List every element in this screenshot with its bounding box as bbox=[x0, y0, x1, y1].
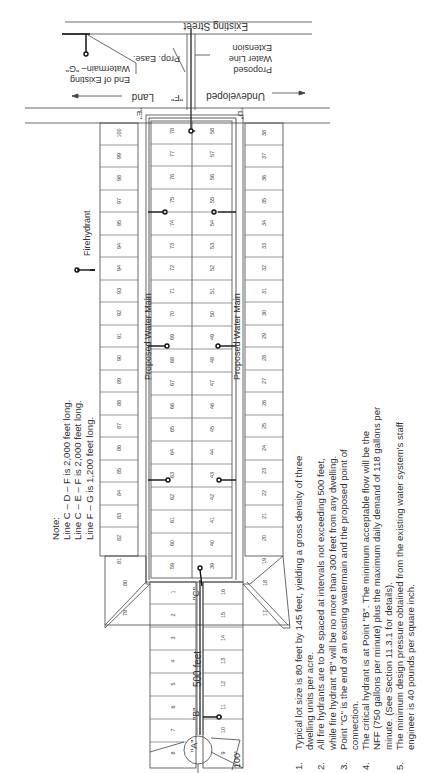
lot-number: 29 bbox=[261, 329, 267, 343]
lot-number: 17 bbox=[262, 606, 268, 620]
note-4: 4.The critical hydrant is at Point "B". … bbox=[360, 407, 394, 770]
firehydrant-legend-label: Firehydrant bbox=[82, 210, 92, 256]
lot-number: 86 bbox=[116, 441, 122, 455]
lot-number: 44 bbox=[209, 445, 215, 459]
lot-number: 47 bbox=[209, 376, 215, 390]
point-f-label: "F" bbox=[171, 93, 183, 103]
note-1: 1.Typical lot size is 80 feet by 145 fee… bbox=[293, 407, 315, 770]
dimension-500-feet: 500 feet bbox=[192, 651, 203, 687]
lot-number: 43 bbox=[209, 468, 215, 482]
lot-number: 19 bbox=[261, 554, 267, 568]
lot-number: 78 bbox=[169, 124, 175, 138]
point-e-label: "E" bbox=[135, 108, 144, 119]
lot-number: 7 bbox=[170, 723, 176, 737]
lot-number: 77 bbox=[169, 147, 175, 161]
lot-number: 73 bbox=[169, 239, 175, 253]
lot-number: 55 bbox=[209, 193, 215, 207]
lot-number: 93 bbox=[116, 284, 122, 298]
lot-number: 60 bbox=[169, 536, 175, 550]
lot-number: 100 bbox=[116, 126, 122, 140]
numbered-notes: 1.Typical lot size is 80 feet by 145 fee… bbox=[293, 407, 416, 770]
lot-number: 68 bbox=[169, 353, 175, 367]
lot-number: 49 bbox=[209, 330, 215, 344]
lot-number: 62 bbox=[169, 490, 175, 504]
lot-number: 36 bbox=[261, 171, 267, 185]
lot-number: 72 bbox=[169, 261, 175, 275]
proposed-extension-label: ProposedWater LineExtension bbox=[229, 42, 272, 75]
lot-number: 45 bbox=[209, 422, 215, 436]
note-3: 3.Point "G" is the end of an existing wa… bbox=[338, 407, 360, 770]
note-2: 2.All fire hydrants are to be spaced at … bbox=[315, 407, 337, 770]
lot-number: 12 bbox=[220, 677, 226, 691]
lot-number: 8 bbox=[170, 746, 176, 760]
lot-number: 84 bbox=[116, 486, 122, 500]
lot-number: 98 bbox=[116, 171, 122, 185]
lot-number: 9 bbox=[220, 746, 226, 760]
lot-number: 27 bbox=[261, 374, 267, 388]
lot-number: 14 bbox=[220, 631, 226, 645]
lot-number: 75 bbox=[169, 193, 175, 207]
lot-number: 10 bbox=[220, 723, 226, 737]
lot-number: 50 bbox=[209, 307, 215, 321]
lot-number: 63 bbox=[169, 468, 175, 482]
lot-number: 94 bbox=[116, 261, 122, 275]
lot-number: 85 bbox=[116, 464, 122, 478]
lot-number: 15 bbox=[220, 608, 226, 622]
point-a-label: "A" bbox=[189, 740, 199, 752]
lot-number: 65 bbox=[169, 422, 175, 436]
lot-number: 3 bbox=[170, 631, 176, 645]
lot-number: 53 bbox=[209, 239, 215, 253]
note-5: 5.The minimum design pressure obtained f… bbox=[394, 407, 416, 770]
lot-number: 18 bbox=[262, 576, 268, 590]
water-main-left-label: Proposed Water Main bbox=[143, 293, 153, 380]
lot-number: 25 bbox=[261, 419, 267, 433]
lot-number: 41 bbox=[209, 513, 215, 527]
lot-number: 81 bbox=[116, 554, 122, 568]
lot-number: 82 bbox=[116, 531, 122, 545]
undeveloped-label: Undeveloped bbox=[206, 91, 265, 102]
lot-number: 79 bbox=[122, 606, 128, 620]
lot-number: 48 bbox=[209, 353, 215, 367]
lot-number: 20 bbox=[261, 531, 267, 545]
lot-number: 23 bbox=[261, 464, 267, 478]
lot-number: 28 bbox=[261, 351, 267, 365]
lot-number: 2 bbox=[170, 608, 176, 622]
lot-number: 26 bbox=[261, 396, 267, 410]
lot-number: 46 bbox=[209, 399, 215, 413]
lot-number: 54 bbox=[209, 216, 215, 230]
land-label: Land bbox=[132, 92, 154, 103]
lot-number: 35 bbox=[261, 194, 267, 208]
lot-number: 89 bbox=[116, 374, 122, 388]
lot-number: 83 bbox=[116, 509, 122, 523]
line-length-note: Note: Line C – D – F is 2,000 feet long.… bbox=[50, 400, 95, 540]
lot-number: 32 bbox=[261, 261, 267, 275]
lot-number: 5 bbox=[170, 677, 176, 691]
lot-number: 38 bbox=[261, 126, 267, 140]
lot-number: 51 bbox=[209, 284, 215, 298]
lot-number: 70 bbox=[169, 307, 175, 321]
lot-number: 42 bbox=[209, 490, 215, 504]
lot-number: 87 bbox=[116, 419, 122, 433]
point-d-label: "D" bbox=[236, 108, 245, 119]
lot-number: 71 bbox=[169, 284, 175, 298]
lot-number: 80 bbox=[122, 576, 128, 590]
lot-number: 94 bbox=[116, 239, 122, 253]
lot-number: 88 bbox=[116, 396, 122, 410]
lot-number: 76 bbox=[169, 170, 175, 184]
lot-number: 34 bbox=[261, 216, 267, 230]
lot-number: 33 bbox=[261, 239, 267, 253]
point-c-label: "C" bbox=[191, 587, 201, 600]
lot-number: 91 bbox=[116, 329, 122, 343]
lot-number: 90 bbox=[116, 351, 122, 365]
lot-number: 21 bbox=[261, 509, 267, 523]
lot-number: 31 bbox=[261, 284, 267, 298]
lot-number: 39 bbox=[209, 559, 215, 573]
lot-number: 16 bbox=[220, 585, 226, 599]
lot-number: 99 bbox=[116, 149, 122, 163]
water-main-right-label: Proposed Water Main bbox=[232, 293, 242, 380]
lot-number: 95 bbox=[116, 216, 122, 230]
lot-number: 11 bbox=[220, 700, 226, 714]
lot-number: 56 bbox=[209, 170, 215, 184]
lot-number: 67 bbox=[169, 376, 175, 390]
point-b-label: "B" bbox=[191, 708, 201, 720]
